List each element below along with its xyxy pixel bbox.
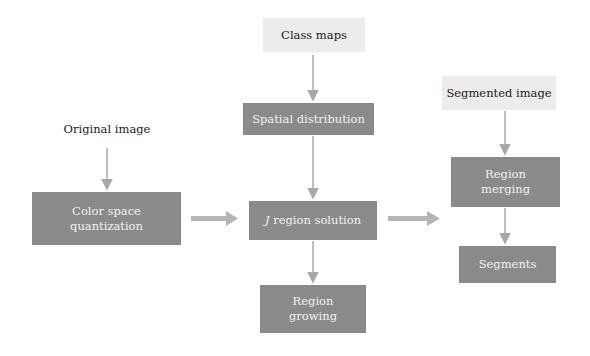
region-merging-line2: merging [481,182,530,197]
spatial-distribution-label: Spatial distribution [252,112,365,127]
color-space-label-line2: quantization [70,219,143,234]
original-image-label: Original image [64,122,151,137]
segmented-image-node: Segmented image [442,76,556,110]
class-maps-node: Class maps [263,18,365,52]
j-region-solution-node: J region solution [249,201,377,240]
region-growing-line1: Region [293,294,334,309]
original-image-node: Original image [45,115,169,143]
region-merging-node: Region merging [451,157,560,207]
region-growing-node: Region growing [260,285,366,333]
class-maps-label: Class maps [281,28,347,43]
arrow-colorspace-to-jregion [191,211,238,226]
region-growing-line2: growing [289,309,337,324]
color-space-label-line1: Color space [72,204,141,219]
spatial-distribution-node: Spatial distribution [243,103,374,135]
arrow-jregion-to-merging [388,211,440,226]
segments-label: Segments [479,257,537,272]
segments-node: Segments [459,246,556,283]
j-region-rest: region solution [270,213,362,227]
j-region-label: J region solution [265,213,361,228]
segmented-image-label: Segmented image [446,86,551,101]
color-space-quantization-node: Color space quantization [32,192,181,245]
region-merging-line1: Region [485,167,526,182]
